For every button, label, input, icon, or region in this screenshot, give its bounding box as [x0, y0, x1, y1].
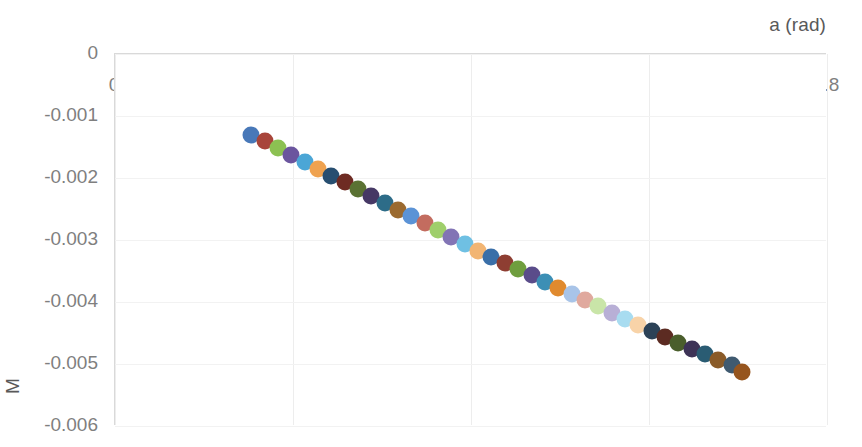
y-axis-tick-label: -0.004	[0, 290, 98, 312]
scatter-chart: a (rad) M 0-0.001-0.002-0.003-0.004-0.00…	[0, 0, 862, 447]
gridline-horizontal	[115, 302, 826, 303]
gridline-horizontal	[115, 426, 826, 427]
data-point-marker[interactable]	[733, 364, 750, 381]
y-axis-title: M	[2, 378, 24, 394]
plot-area	[114, 53, 826, 425]
y-axis-tick-label: -0.001	[0, 104, 98, 126]
y-axis-tick-label: -0.003	[0, 228, 98, 250]
gridline-horizontal	[115, 178, 826, 179]
gridline-horizontal	[115, 54, 826, 55]
y-axis-tick-label: 0	[0, 42, 98, 64]
y-axis-tick-label: -0.006	[0, 414, 98, 436]
gridline-vertical	[827, 54, 828, 425]
x-axis-title: a (rad)	[769, 14, 826, 36]
gridline-horizontal	[115, 116, 826, 117]
y-axis-tick-label: -0.005	[0, 352, 98, 374]
y-axis-tick-label: -0.002	[0, 166, 98, 188]
